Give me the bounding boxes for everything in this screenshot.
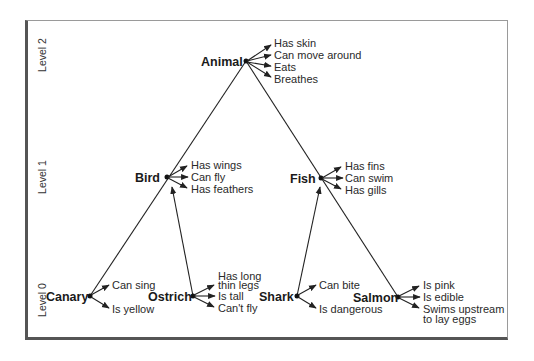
- feature-label: Is yellow: [112, 303, 154, 315]
- level-2-label: Level 2: [36, 38, 48, 72]
- feature-label: Can bite: [319, 279, 360, 291]
- feature-label: Can fly: [191, 171, 226, 183]
- level-1-label: Level 1: [36, 160, 48, 194]
- semantic-network-diagram: Level 2 Level 1 Level 0 Animal Has skin …: [0, 0, 534, 361]
- node-label: Fish: [290, 172, 316, 186]
- node-animal: Animal Has skin Can move around Eats Bre…: [201, 37, 361, 85]
- feature-label: Can move around: [274, 49, 361, 61]
- node-fish: Fish Has fins Can swim Has gills: [290, 160, 393, 196]
- feature-label: Has gills: [345, 184, 387, 196]
- feature-label: Is tall: [218, 290, 244, 302]
- node-canary: Canary Can sing Is yellow: [46, 279, 155, 315]
- feature-label: Breathes: [274, 73, 319, 85]
- feature-label: Is pink: [423, 279, 455, 291]
- feature-label: Has wings: [191, 159, 242, 171]
- feature-label: Is edible: [423, 291, 464, 303]
- node-label: Salmon: [353, 291, 398, 305]
- feature-label: to lay eggs: [423, 313, 477, 325]
- node-label: Canary: [46, 290, 88, 304]
- feature-label: Eats: [274, 61, 297, 73]
- node-label: Shark: [259, 290, 294, 304]
- feature-label: Can swim: [345, 172, 393, 184]
- feature-label: Can't fly: [218, 302, 258, 314]
- node-ostrich: Ostrich Has long thin legs Is tall Can't…: [148, 270, 261, 314]
- feature-label: Has feathers: [191, 183, 254, 195]
- node-label: Animal: [201, 55, 243, 69]
- node-label: Bird: [135, 171, 160, 185]
- node-salmon: Salmon Is pink Is edible Swims upstream …: [353, 279, 504, 325]
- feature-label: Has skin: [274, 37, 316, 49]
- feature-label: Has fins: [345, 160, 385, 172]
- node-bird: Bird Has wings Can fly Has feathers: [135, 159, 254, 195]
- node-label: Ostrich: [148, 290, 192, 304]
